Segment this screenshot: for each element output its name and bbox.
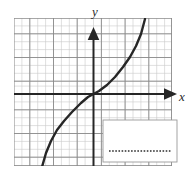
answer-line-dot [131,150,133,152]
answer-line-dot [147,150,149,152]
answer-line-dot [159,150,161,152]
coordinate-graph-svg: y x [0,0,194,175]
answer-line-dot [112,150,114,152]
answer-line-dot [115,150,117,152]
answer-line-dot [109,150,111,152]
answer-line-dot [118,150,120,152]
answer-line-dot [150,150,152,152]
answer-line-dot [153,150,155,152]
answer-line-dot [166,150,168,152]
x-axis-label: x [178,89,185,104]
y-axis-label: y [90,4,98,19]
answer-box[interactable] [103,120,177,162]
answer-line-dot [134,150,136,152]
graph-figure: y x [0,0,194,175]
answer-line-dot [144,150,146,152]
answer-line-dot [141,150,143,152]
answer-line-dot [156,150,158,152]
answer-line-dot [122,150,124,152]
answer-line-dot [125,150,127,152]
answer-line-dot [163,150,165,152]
answer-line-dot [169,150,171,152]
answer-line-dot [137,150,139,152]
answer-line-dot [128,150,130,152]
